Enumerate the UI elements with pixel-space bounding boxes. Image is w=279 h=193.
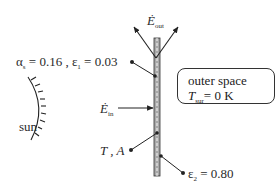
outer-space-box: outer space Tsur= 0 K	[177, 68, 275, 104]
plate	[154, 38, 160, 176]
alpha-value: = 0.16 ,	[29, 54, 72, 69]
eps1-subscript: 1	[77, 63, 81, 71]
alpha-subscript: s	[23, 63, 26, 71]
e-in-label: Ėin	[100, 102, 113, 118]
back-surface-emissivity-label: ε2 = 0.80	[188, 167, 234, 183]
e-in-symbol: Ė	[100, 101, 108, 116]
temperature-area-label: T , A	[100, 144, 124, 157]
e-out-label: Ėout	[147, 14, 164, 30]
outer-space-label: outer space	[188, 73, 247, 89]
e-in-subscript: in	[108, 110, 113, 118]
e-out-subscript: out	[155, 22, 164, 30]
t-subscript: sur	[195, 97, 204, 105]
e-out-symbol: Ė	[147, 13, 155, 28]
front-surface-leader	[130, 60, 157, 78]
eps2-subscript: 2	[193, 175, 197, 183]
alpha-symbol: α	[16, 54, 23, 69]
t-sur-value: = 0 K	[204, 88, 234, 103]
front-surface-properties-label: αs = 0.16 , ε1 = 0.03	[16, 55, 117, 71]
back-surface-leader	[159, 154, 185, 175]
eps1-value: = 0.03	[84, 54, 117, 69]
surroundings-temperature-label: Tsur= 0 K	[188, 88, 234, 105]
sun-label: sun	[19, 120, 37, 133]
eps2-value: = 0.80	[200, 166, 233, 181]
